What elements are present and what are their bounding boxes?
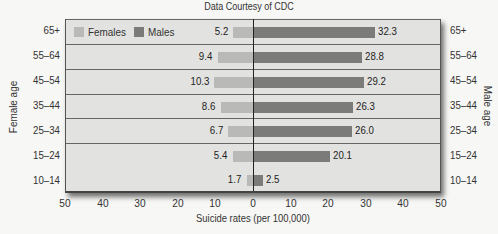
female-value-label: 1.7 (228, 173, 241, 185)
male-age-label: 10–14 (450, 174, 477, 186)
female-bar (214, 77, 253, 88)
male-value-label: 29.2 (367, 75, 386, 87)
female-value-label: 8.6 (202, 100, 215, 112)
female-value-label: 5.2 (215, 25, 228, 37)
x-tick-label: 40 (390, 197, 416, 209)
female-bar (228, 126, 253, 137)
male-bar (254, 52, 362, 63)
x-tick-label: 20 (165, 197, 191, 209)
female-value-label: 6.7 (209, 124, 222, 136)
female-value-label: 9.4 (199, 50, 212, 62)
male-age-label: 15–24 (450, 149, 477, 161)
male-bar (254, 77, 364, 88)
x-tick-label: 0 (240, 197, 266, 209)
male-bar (254, 126, 352, 137)
female-age-label: 25–34 (20, 124, 60, 136)
male-bar (254, 151, 330, 162)
male-value-label: 26.0 (355, 124, 374, 136)
female-bar (221, 102, 253, 113)
zero-axis-line (253, 19, 254, 191)
male-age-label: 65+ (450, 24, 466, 36)
plot-area: 1.72.55.420.16.726.08.626.310.329.29.428… (65, 19, 441, 193)
x-tick-label: 30 (127, 197, 153, 209)
male-age-label: 35–44 (450, 99, 477, 111)
male-bar (254, 27, 375, 38)
female-age-label: 65+ (20, 24, 60, 36)
legend: Females Males (74, 26, 182, 38)
male-age-label: 55–64 (450, 49, 477, 61)
males-swatch (134, 27, 144, 37)
female-age-label: 45–54 (20, 74, 60, 86)
male-bar (254, 102, 353, 113)
female-bar (233, 151, 253, 162)
x-tick-label: 20 (315, 197, 341, 209)
x-tick-label: 50 (52, 197, 78, 209)
x-tick-label: 30 (353, 197, 379, 209)
female-value-label: 10.3 (190, 75, 209, 87)
male-value-label: 2.5 (266, 173, 279, 185)
x-axis-label: Suicide rates (per 100,000) (25, 212, 480, 224)
data-credit: Data Courtesy of CDC (25, 1, 473, 12)
female-bar (218, 52, 253, 63)
male-value-label: 32.3 (378, 25, 397, 37)
female-bar (233, 27, 253, 38)
x-tick-label: 40 (89, 197, 115, 209)
x-tick-label: 10 (277, 197, 303, 209)
male-value-label: 28.8 (365, 50, 384, 62)
x-tick-label: 10 (202, 197, 228, 209)
female-age-label: 15–24 (20, 149, 60, 161)
male-value-label: 20.1 (333, 149, 352, 161)
female-value-label: 5.4 (214, 149, 227, 161)
female-age-label: 35–44 (20, 99, 60, 111)
male-bar (254, 175, 263, 186)
male-age-label: 25–34 (450, 124, 477, 136)
female-age-label: 10–14 (20, 174, 60, 186)
x-tick-label: 50 (428, 197, 454, 209)
females-swatch (74, 27, 84, 37)
legend-females-label: Females (88, 26, 126, 38)
legend-males-label: Males (148, 26, 174, 38)
male-age-label: 45–54 (450, 74, 477, 86)
male-value-label: 26.3 (356, 100, 375, 112)
female-age-label: 55–64 (20, 49, 60, 61)
